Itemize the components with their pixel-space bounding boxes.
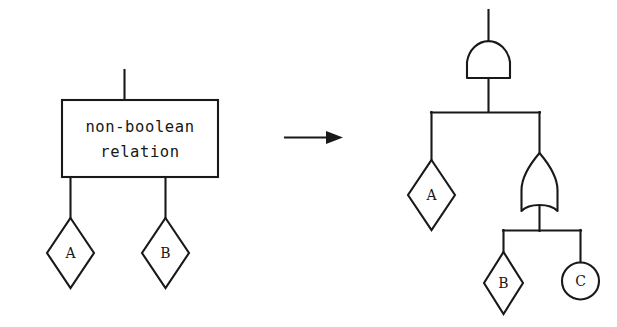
right-node-b-label: B xyxy=(498,275,508,291)
left-side-group: non-boolean relation A B xyxy=(47,70,218,288)
non-boolean-relation-box xyxy=(62,100,218,177)
right-node-c-label: C xyxy=(575,273,586,289)
left-node-b-label: B xyxy=(160,245,170,261)
non-boolean-relation-line2: relation xyxy=(100,143,179,161)
and-gate-shape xyxy=(467,41,510,78)
right-node-c: C xyxy=(562,263,599,300)
right-side-group: A B C xyxy=(408,10,599,314)
left-node-a-label: A xyxy=(64,245,76,261)
right-node-a: A xyxy=(408,160,455,230)
transform-arrow xyxy=(285,131,343,144)
left-node-a: A xyxy=(47,218,94,288)
right-node-a-label: A xyxy=(425,187,437,203)
arrow-head-icon xyxy=(326,131,343,144)
and-gate xyxy=(467,41,510,78)
or-gate-shape xyxy=(522,153,558,211)
diagram-canvas: non-boolean relation A B xyxy=(0,0,617,327)
transformation-diagram: non-boolean relation A B xyxy=(0,0,617,327)
left-node-b: B xyxy=(142,218,189,288)
or-gate xyxy=(522,153,558,211)
right-node-b: B xyxy=(484,252,523,314)
non-boolean-relation-line1: non-boolean xyxy=(85,118,194,136)
